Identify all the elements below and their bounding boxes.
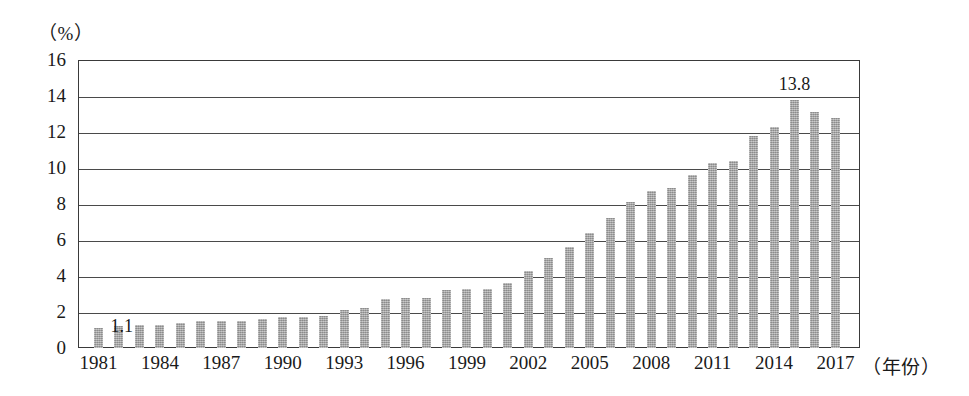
y-tick-label: 2 [12, 301, 72, 323]
bar [729, 161, 738, 348]
bars-layer: 1.113.8 [78, 60, 860, 348]
bar [135, 325, 144, 348]
x-axis-tick-labels: 1981198419871990199319961999200220052008… [78, 352, 860, 386]
bar [340, 310, 349, 348]
data-label: 13.8 [779, 74, 811, 95]
bar [155, 325, 164, 348]
bar [585, 233, 594, 348]
bar [708, 163, 717, 348]
y-tick-label: 6 [12, 229, 72, 251]
bar [544, 258, 553, 348]
bar [647, 191, 656, 348]
bar [462, 289, 471, 348]
x-tick-label: 2017 [816, 352, 854, 374]
bar [217, 321, 226, 348]
bar [94, 328, 103, 348]
bar [688, 175, 697, 348]
x-tick-label: 2002 [509, 352, 547, 374]
y-tick-label: 4 [12, 265, 72, 287]
bar [606, 218, 615, 348]
x-tick-label: 1984 [141, 352, 179, 374]
bar [503, 283, 512, 348]
bar [381, 299, 390, 348]
bar [831, 118, 840, 348]
x-tick-label: 2005 [571, 352, 609, 374]
y-axis-unit-label: （%） [38, 18, 93, 45]
x-tick-label: 2011 [694, 352, 731, 374]
bar [749, 136, 758, 348]
bar [237, 321, 246, 348]
bar [176, 323, 185, 348]
x-tick-label: 1996 [387, 352, 425, 374]
bar [483, 289, 492, 348]
bar [810, 112, 819, 348]
x-tick-label: 2008 [632, 352, 670, 374]
x-tick-label: 1987 [202, 352, 240, 374]
y-tick-label: 0 [12, 337, 72, 359]
bar [442, 290, 451, 348]
bar [360, 308, 369, 348]
bar [319, 316, 328, 348]
bar [422, 298, 431, 348]
bar [770, 127, 779, 348]
y-tick-label: 16 [12, 49, 72, 71]
bar [299, 317, 308, 348]
x-axis-title: （年份） [862, 352, 940, 379]
bar [196, 321, 205, 348]
x-tick-label: 1999 [448, 352, 486, 374]
x-tick-label: 2014 [755, 352, 793, 374]
y-tick-label: 14 [12, 85, 72, 107]
y-tick-label: 12 [12, 121, 72, 143]
bar [667, 188, 676, 348]
bar [258, 319, 267, 348]
y-tick-label: 10 [12, 157, 72, 179]
bar [565, 247, 574, 348]
x-tick-label: 1990 [264, 352, 302, 374]
x-tick-label: 1993 [325, 352, 363, 374]
bar [626, 202, 635, 348]
y-tick-label: 8 [12, 193, 72, 215]
data-label: 1.1 [110, 316, 133, 337]
bar [790, 100, 799, 348]
bar [401, 298, 410, 348]
bar-chart: （%） 0246810121416 1.113.8 19811984198719… [0, 0, 969, 396]
bar [524, 271, 533, 348]
x-tick-label: 1981 [79, 352, 117, 374]
bar [278, 317, 287, 348]
y-axis-tick-labels: 0246810121416 [0, 60, 72, 348]
